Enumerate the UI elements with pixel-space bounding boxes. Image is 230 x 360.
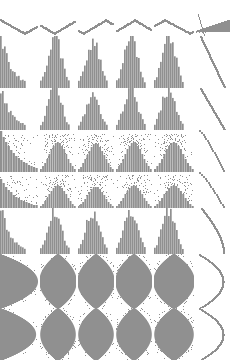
splom-panel-r2-c1: [40, 88, 76, 130]
splom-panel-r7-c1: [40, 308, 76, 360]
splom-panel-r7-c3: [116, 308, 152, 360]
splom-panel-canvas: [196, 308, 230, 360]
splom-panel-canvas: [40, 208, 76, 254]
splom-panel-r5-c5: [196, 208, 230, 254]
splom-panel-canvas: [78, 308, 114, 360]
splom-panel-canvas: [196, 130, 230, 172]
splom-panel-canvas: [116, 254, 152, 308]
splom-panel-r1-c2: [78, 36, 114, 88]
splom-panel-canvas: [78, 172, 114, 208]
splom-panel-canvas: [116, 208, 152, 254]
splom-panel-canvas: [154, 254, 194, 308]
splom-panel-canvas: [116, 14, 152, 36]
splom-panel-canvas: [196, 254, 230, 308]
splom-panel-canvas: [78, 130, 114, 172]
splom-panel-canvas: [40, 14, 76, 36]
splom-panel-r3-c1: [40, 130, 76, 172]
splom-panel-canvas: [154, 308, 194, 360]
splom-panel-canvas: [154, 36, 194, 88]
splom-panel-canvas: [78, 88, 114, 130]
scatterplot-matrix: [0, 0, 230, 360]
splom-panel-r0-c5: [196, 14, 230, 36]
splom-panel-canvas: [0, 88, 38, 130]
splom-panel-r0-c1: [40, 14, 76, 36]
splom-panel-canvas: [116, 88, 152, 130]
splom-panel-r5-c4: [154, 208, 194, 254]
splom-panel-r4-c0: [0, 172, 38, 208]
splom-panel-canvas: [0, 130, 38, 172]
splom-panel-r6-c2: [78, 254, 114, 308]
splom-panel-r2-c4: [154, 88, 194, 130]
splom-panel-r1-c3: [116, 36, 152, 88]
splom-panel-r2-c3: [116, 88, 152, 130]
splom-panel-r1-c4: [154, 36, 194, 88]
splom-panel-canvas: [78, 14, 114, 36]
splom-panel-canvas: [154, 130, 194, 172]
splom-panel-r1-c0: [0, 36, 38, 88]
splom-panel-r3-c2: [78, 130, 114, 172]
splom-panel-r7-c0: [0, 308, 38, 360]
splom-panel-r5-c3: [116, 208, 152, 254]
splom-panel-canvas: [0, 14, 38, 36]
splom-panel-canvas: [154, 172, 194, 208]
splom-panel-canvas: [154, 14, 194, 36]
splom-panel-r4-c4: [154, 172, 194, 208]
splom-panel-canvas: [154, 88, 194, 130]
splom-panel-canvas: [154, 208, 194, 254]
splom-panel-r6-c4: [154, 254, 194, 308]
splom-panel-r0-c2: [78, 14, 114, 36]
splom-panel-r2-c5: [196, 88, 230, 130]
splom-panel-canvas: [196, 88, 230, 130]
splom-panel-canvas: [0, 208, 38, 254]
splom-panel-r5-c1: [40, 208, 76, 254]
splom-panel-canvas: [40, 88, 76, 130]
splom-panel-canvas: [40, 254, 76, 308]
splom-panel-canvas: [0, 254, 38, 308]
splom-panel-r0-c0: [0, 14, 38, 36]
splom-panel-r2-c2: [78, 88, 114, 130]
splom-panel-r6-c3: [116, 254, 152, 308]
splom-panel-r0-c4: [154, 14, 194, 36]
splom-panel-r6-c0: [0, 254, 38, 308]
splom-panel-r1-c5: [196, 36, 230, 88]
splom-panel-r7-c2: [78, 308, 114, 360]
splom-panel-canvas: [116, 130, 152, 172]
splom-panel-canvas: [40, 130, 76, 172]
splom-panel-r0-c3: [116, 14, 152, 36]
splom-panel-canvas: [116, 172, 152, 208]
splom-panel-r7-c5: [196, 308, 230, 360]
splom-panel-canvas: [78, 254, 114, 308]
splom-panel-r3-c4: [154, 130, 194, 172]
splom-panel-r3-c5: [196, 130, 230, 172]
splom-panel-r4-c2: [78, 172, 114, 208]
splom-panel-r1-c1: [40, 36, 76, 88]
splom-panel-canvas: [0, 36, 38, 88]
splom-panel-r5-c2: [78, 208, 114, 254]
splom-panel-r2-c0: [0, 88, 38, 130]
splom-panel-r3-c3: [116, 130, 152, 172]
splom-panel-canvas: [116, 36, 152, 88]
splom-panel-canvas: [0, 172, 38, 208]
splom-panel-r4-c1: [40, 172, 76, 208]
splom-panel-r4-c3: [116, 172, 152, 208]
splom-panel-r6-c5: [196, 254, 230, 308]
splom-panel-canvas: [116, 308, 152, 360]
splom-panel-canvas: [78, 208, 114, 254]
splom-panel-canvas: [196, 172, 230, 208]
splom-panel-r6-c1: [40, 254, 76, 308]
splom-panel-canvas: [196, 208, 230, 254]
splom-panel-canvas: [196, 36, 230, 88]
splom-panel-canvas: [0, 308, 38, 360]
splom-panel-r5-c0: [0, 208, 38, 254]
splom-panel-r3-c0: [0, 130, 38, 172]
splom-panel-canvas: [40, 172, 76, 208]
splom-panel-canvas: [40, 36, 76, 88]
splom-panel-canvas: [196, 14, 230, 36]
splom-panel-canvas: [78, 36, 114, 88]
splom-panel-canvas: [40, 308, 76, 360]
splom-panel-r4-c5: [196, 172, 230, 208]
splom-panel-r7-c4: [154, 308, 194, 360]
